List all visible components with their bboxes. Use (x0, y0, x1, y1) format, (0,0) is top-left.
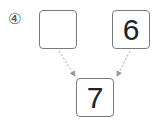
total-number-box: 7 (76, 78, 114, 117)
given-number-box: 6 (112, 10, 150, 49)
right-box-value: 6 (123, 13, 140, 47)
arrow-right-to-bottom (117, 51, 130, 76)
bottom-box-value: 7 (87, 81, 104, 115)
arrow-left-to-bottom (59, 51, 75, 76)
empty-answer-box[interactable] (39, 10, 77, 49)
